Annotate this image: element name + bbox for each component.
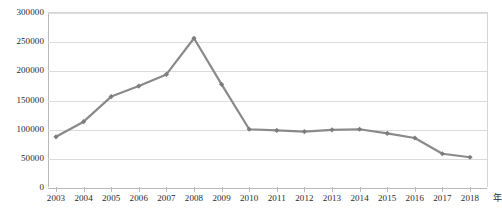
x-axis-tick (56, 187, 57, 192)
x-axis-tick (111, 187, 112, 192)
data-point-marker (385, 131, 390, 136)
x-axis-tick (470, 187, 471, 192)
x-axis-tick (222, 187, 223, 192)
y-axis-tick-label: 200000 (0, 65, 44, 75)
data-point-marker (467, 155, 472, 160)
x-axis-tick (304, 187, 305, 192)
x-axis-unit-label: 年 (493, 193, 502, 204)
x-axis-ticks (48, 187, 488, 192)
x-axis-tick (387, 187, 388, 192)
x-axis-tick (332, 187, 333, 192)
series-line (56, 38, 470, 157)
data-series (48, 12, 488, 187)
x-axis-tick (194, 187, 195, 192)
x-axis-tick (84, 187, 85, 192)
data-point-marker (302, 129, 307, 134)
x-axis-tick (139, 187, 140, 192)
x-axis-tick (277, 187, 278, 192)
x-axis-tick (442, 187, 443, 192)
y-axis-tick-label: 0 (0, 182, 44, 192)
data-point-marker (329, 127, 334, 132)
x-axis-tick (415, 187, 416, 192)
x-axis-tick (166, 187, 167, 192)
y-axis-tick-label: 50000 (0, 153, 44, 163)
y-axis-tick-label: 300000 (0, 7, 44, 17)
data-point-marker (357, 127, 362, 132)
x-axis-tick (249, 187, 250, 192)
y-axis-tick-label: 100000 (0, 124, 44, 134)
data-point-marker (274, 128, 279, 133)
x-axis-tick-labels: 2003200420052006200720082009201020112012… (0, 193, 498, 207)
y-axis-tick-label: 150000 (0, 95, 44, 105)
x-axis-tick-label: 2018 (450, 193, 490, 204)
y-axis-tick-label: 250000 (0, 36, 44, 46)
y-axis-tick-labels: 050000100000150000200000250000300000 (0, 0, 44, 217)
x-axis-tick (360, 187, 361, 192)
